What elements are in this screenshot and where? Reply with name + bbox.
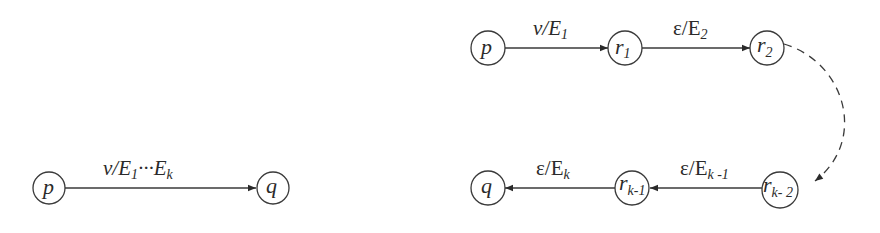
edge-r1-r2-label: ε/E2: [673, 16, 707, 42]
node-rk-2: rk- 2: [762, 172, 798, 208]
left-node-p: p: [33, 172, 65, 204]
automaton-diagram: q ===== --> v/E1···Ek p q v/E1 ε/E2 p r1…: [0, 0, 880, 233]
edge-p-r1-label: v/E1: [533, 16, 568, 42]
node-r1: r1: [608, 31, 642, 65]
svg-text:p: p: [41, 174, 54, 199]
node-r2: r2: [750, 31, 784, 65]
node-rk-1: rk-1: [615, 170, 649, 205]
node-q: q: [471, 171, 505, 205]
left-edge-label: v/E1···Ek: [103, 156, 174, 182]
left-node-q: q: [257, 172, 289, 204]
svg-text:q: q: [266, 173, 277, 198]
svg-text:q: q: [481, 173, 492, 198]
edge-rk-2-rk-1-label: ε/Ek -1: [680, 156, 729, 182]
edge-r2-to-rk-2-dashed: [784, 44, 845, 181]
node-p: p: [471, 31, 505, 65]
edge-rk-1-q-label: ε/Ek: [536, 156, 570, 182]
svg-text:p: p: [479, 34, 492, 59]
